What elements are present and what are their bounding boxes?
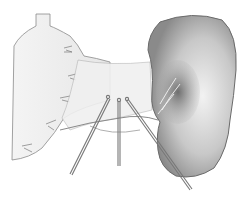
surgical-illustration	[0, 0, 248, 203]
spleen	[148, 15, 236, 177]
